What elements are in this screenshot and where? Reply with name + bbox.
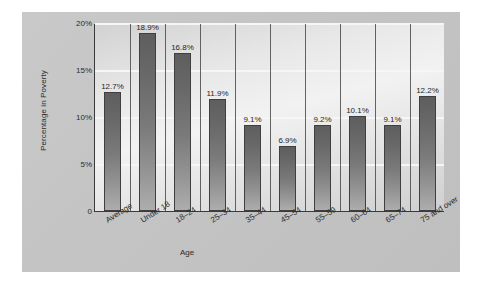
bar-value-label: 11.9% xyxy=(202,89,234,98)
bar[interactable] xyxy=(384,125,402,211)
category-separator xyxy=(130,24,131,211)
x-axis-title: Age xyxy=(22,248,352,257)
bar[interactable] xyxy=(244,125,262,211)
bar-value-label: 16.8% xyxy=(167,43,199,52)
bar-value-label: 9.1% xyxy=(237,115,269,124)
y-axis-tick-labels: 05%10%15%20% xyxy=(54,12,92,272)
bar[interactable] xyxy=(314,125,332,211)
figure-panel: Percentage in Poverty 05%10%15%20% 12.7%… xyxy=(22,12,460,272)
category-separator xyxy=(200,24,201,211)
bar[interactable] xyxy=(279,146,297,211)
plot-area: 12.7%18.9%16.8%11.9%9.1%6.9%9.2%10.1%9.1… xyxy=(94,24,444,212)
bar-value-label: 12.7% xyxy=(97,82,129,91)
category-separator xyxy=(410,24,411,211)
y-axis-tick-label: 5% xyxy=(58,160,92,169)
y-axis-tick-label: 15% xyxy=(58,66,92,75)
y-axis-tick-label: 10% xyxy=(58,113,92,122)
chart-page: Percentage in Poverty 05%10%15%20% 12.7%… xyxy=(0,0,482,288)
bar[interactable] xyxy=(139,33,157,211)
bar-value-label: 6.9% xyxy=(272,136,304,145)
bar[interactable] xyxy=(174,53,192,211)
bar[interactable] xyxy=(349,116,367,211)
bar-value-label: 18.9% xyxy=(132,23,164,32)
y-axis-title: Percentage in Poverty xyxy=(39,46,48,176)
bar[interactable] xyxy=(209,99,227,211)
bar-value-label: 9.1% xyxy=(377,115,409,124)
category-separator xyxy=(340,24,341,211)
bar-value-label: 10.1% xyxy=(342,106,374,115)
category-separator xyxy=(270,24,271,211)
y-axis-tick-label: 0 xyxy=(58,207,92,216)
y-axis-tick-label: 20% xyxy=(58,19,92,28)
bar[interactable] xyxy=(419,96,437,211)
bar-value-label: 9.2% xyxy=(307,115,339,124)
bar-value-label: 12.2% xyxy=(412,86,444,95)
bar[interactable] xyxy=(104,92,122,211)
